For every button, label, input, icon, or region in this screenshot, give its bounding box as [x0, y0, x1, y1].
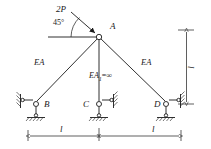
- node-label-c: C: [83, 100, 89, 109]
- truss-members: [37, 37, 165, 101]
- member-ab: [37, 37, 99, 101]
- node-label-a: A: [110, 22, 116, 31]
- node-label-b: B: [44, 100, 50, 109]
- node-label-d: D: [154, 100, 161, 109]
- angle-label-45: 45°: [53, 19, 64, 27]
- dimension-bottom: [28, 128, 181, 141]
- truss-diagram-figure: 2P 45° A EA EA EA1=∞ B C D l l l: [0, 0, 211, 149]
- member-label-ea-right: EA: [141, 58, 151, 67]
- ea1-prefix: EA: [89, 71, 99, 80]
- ea1-value: =∞: [102, 71, 112, 80]
- node-a-joint: [96, 34, 101, 39]
- member-label-ea1-infinity: EA1=∞: [89, 72, 112, 82]
- support-c: [89, 92, 118, 122]
- support-b: [17, 92, 46, 121]
- load-arrow-2p: [71, 12, 95, 33]
- angle-arc-45: [71, 18, 80, 38]
- dim-label-span-left: l: [60, 125, 63, 134]
- dim-label-height: l: [187, 66, 196, 69]
- load-label-2p: 2P: [56, 5, 66, 14]
- dim-label-span-right: l: [152, 125, 155, 134]
- member-ad: [99, 37, 165, 101]
- member-label-ea-left: EA: [34, 58, 44, 67]
